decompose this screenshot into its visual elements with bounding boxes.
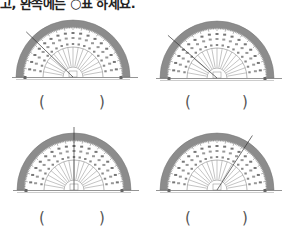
answer-open-paren-2: ( xyxy=(185,93,191,111)
protractor-graphic xyxy=(11,127,141,195)
protractor-1 xyxy=(10,14,140,86)
protractor-graphic xyxy=(154,15,284,83)
answer-open-paren-4: ( xyxy=(185,209,191,227)
protractor-4 xyxy=(154,127,284,199)
angle-ray-line xyxy=(217,135,252,190)
answer-open-paren-1: ( xyxy=(39,93,45,111)
answer-close-paren-3: ) xyxy=(99,209,105,227)
protractor-2 xyxy=(154,15,284,87)
protractor-graphic xyxy=(10,14,140,82)
answer-close-paren-2: ) xyxy=(242,93,248,111)
answer-blank-4[interactable] xyxy=(196,209,241,227)
protractor-3 xyxy=(11,127,141,199)
answer-blank-2[interactable] xyxy=(196,93,241,111)
angle-ray-line xyxy=(168,35,217,78)
protractor-graphic xyxy=(154,127,284,195)
answer-open-paren-3: ( xyxy=(39,209,45,227)
answer-close-paren-4: ) xyxy=(242,209,248,227)
answer-blank-1[interactable] xyxy=(50,93,95,111)
answer-blank-3[interactable] xyxy=(50,209,95,227)
instruction-text: 고, 완쪽에는 ○표 하세요. xyxy=(0,0,135,12)
answer-close-paren-1: ) xyxy=(99,93,105,111)
